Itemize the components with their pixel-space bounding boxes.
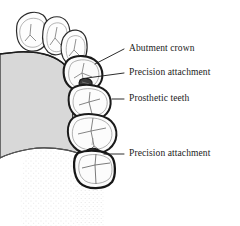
label-prosthetic-teeth: Prosthetic teeth bbox=[129, 94, 189, 104]
dental-bridge-diagram: Abutment crown Precision attachment Pros… bbox=[0, 0, 240, 226]
label-abutment-crown: Abutment crown bbox=[129, 44, 195, 54]
label-precision-attachment-lower: Precision attachment bbox=[129, 149, 210, 159]
leader-abutment-crown bbox=[95, 49, 124, 64]
label-precision-attachment-upper: Precision attachment bbox=[129, 68, 210, 78]
terminal-unit bbox=[74, 151, 115, 189]
diagram-illustration bbox=[0, 0, 240, 226]
